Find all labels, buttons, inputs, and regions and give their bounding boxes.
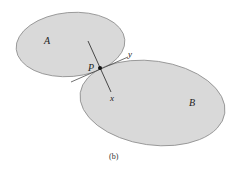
contact-diagram: A B P x y (b) (0, 0, 236, 177)
contact-point-marker (98, 66, 102, 70)
label-contact-point: P (87, 62, 94, 73)
label-body-a: A (43, 35, 51, 46)
label-axis-y: y (127, 49, 132, 59)
label-body-b: B (189, 97, 195, 108)
label-axis-x: x (109, 93, 114, 103)
figure-caption: (b) (109, 152, 119, 161)
